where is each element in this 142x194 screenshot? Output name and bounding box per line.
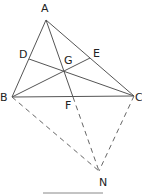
- label-b: B: [0, 91, 8, 104]
- dashed-fn: [73, 97, 99, 171]
- label-d: D: [19, 48, 27, 61]
- dashed-cn: [99, 96, 134, 171]
- median-cd: [29, 59, 134, 96]
- label-n: N: [99, 176, 107, 189]
- median-be: [12, 58, 90, 97]
- label-a: A: [41, 2, 49, 15]
- label-c: C: [135, 91, 142, 104]
- label-e: E: [93, 47, 100, 60]
- label-f: F: [65, 99, 71, 112]
- side-ab: [12, 20, 46, 97]
- geometry-diagram: A B C D E F G N: [0, 0, 142, 194]
- label-g: G: [64, 54, 73, 67]
